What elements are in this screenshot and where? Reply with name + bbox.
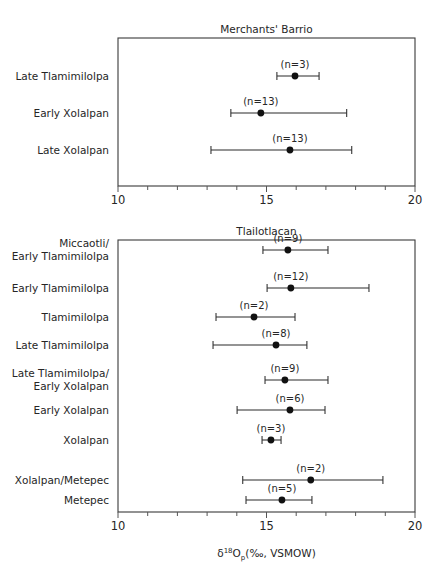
mean-marker <box>273 342 280 349</box>
data-row: Miccaotli/Early Tlamimilolpa(n=9) <box>12 233 328 262</box>
mean-marker <box>307 477 314 484</box>
category-label: Early Tlamimilolpa <box>12 282 109 294</box>
plot-frame <box>118 240 415 512</box>
category-label: Early Xolalpan <box>34 380 110 392</box>
panel-merchants-barrio: Merchants' Barrio101520Late Tlamimilolpa… <box>15 23 422 207</box>
mean-marker <box>287 147 294 154</box>
category-label: Late Tlamimilolpa/ <box>12 367 110 379</box>
mean-marker <box>292 73 299 80</box>
data-row: Late Xolalpan(n=13) <box>37 133 352 156</box>
panel-title: Merchants' Barrio <box>220 23 312 35</box>
sample-size-label: (n=3) <box>281 59 310 70</box>
mean-marker <box>279 497 286 504</box>
mean-marker <box>282 377 289 384</box>
mean-marker <box>287 407 294 414</box>
sample-size-label: (n=9) <box>270 363 299 374</box>
sample-size-label: (n=12) <box>273 271 308 282</box>
x-tick-label: 15 <box>259 193 274 207</box>
x-tick-label: 10 <box>111 193 126 207</box>
data-row: Early Xolalpan(n=13) <box>34 96 347 119</box>
data-row: Early Tlamimilolpa(n=12) <box>12 271 369 294</box>
panel-tlailotlacan: Tlailotlacan101520Miccaotli/Early Tlamim… <box>12 225 423 533</box>
figure-root: Merchants' Barrio101520Late Tlamimilolpa… <box>0 0 442 587</box>
sample-size-label: (n=6) <box>276 393 305 404</box>
x-tick-label: 20 <box>408 519 423 533</box>
category-label: Late Tlamimilolpa <box>15 339 109 351</box>
sample-size-label: (n=8) <box>262 328 291 339</box>
mean-marker <box>284 247 291 254</box>
data-row: Late Tlamimilolpa/Early Xolalpan(n=9) <box>12 363 328 392</box>
data-row: Early Xolalpan(n=6) <box>34 393 326 416</box>
oxygen-isotope-forest-plot: Merchants' Barrio101520Late Tlamimilolpa… <box>0 0 442 587</box>
sample-size-label: (n=2) <box>240 300 269 311</box>
mean-marker <box>257 110 264 117</box>
category-label: Miccaotli/ <box>59 237 109 249</box>
sample-size-label: (n=13) <box>272 133 307 144</box>
x-tick-label: 15 <box>259 519 274 533</box>
category-label: Tlamimilolpa <box>41 311 109 323</box>
category-label: Early Xolalpan <box>34 107 110 119</box>
data-row: Tlamimilolpa(n=2) <box>41 300 295 323</box>
data-row: Late Tlamimilolpa(n=3) <box>15 59 319 82</box>
x-tick-label: 20 <box>408 193 423 207</box>
mean-marker <box>287 285 294 292</box>
category-label: Early Xolalpan <box>34 404 110 416</box>
category-label: Late Tlamimilolpa <box>15 70 109 82</box>
category-label: Metepec <box>64 494 109 506</box>
category-label: Xolalpan/Metepec <box>15 474 109 486</box>
mean-marker <box>251 314 258 321</box>
category-label: Late Xolalpan <box>37 144 109 156</box>
data-row: Xolalpan(n=3) <box>63 423 285 446</box>
category-label: Early Tlamimilolpa <box>12 250 109 262</box>
sample-size-label: (n=2) <box>296 463 325 474</box>
sample-size-label: (n=5) <box>267 483 296 494</box>
sample-size-label: (n=9) <box>273 233 302 244</box>
category-label: Xolalpan <box>63 434 109 446</box>
sample-size-label: (n=3) <box>257 423 286 434</box>
x-tick-label: 10 <box>111 519 126 533</box>
plot-frame <box>118 38 415 186</box>
mean-marker <box>268 437 275 444</box>
x-axis-title: δ18Op(‰, VSMOW) <box>217 547 316 563</box>
data-row: Late Tlamimilolpa(n=8) <box>15 328 307 351</box>
data-row: Metepec(n=5) <box>64 483 312 506</box>
sample-size-label: (n=13) <box>243 96 278 107</box>
data-row: Xolalpan/Metepec(n=2) <box>15 463 383 486</box>
